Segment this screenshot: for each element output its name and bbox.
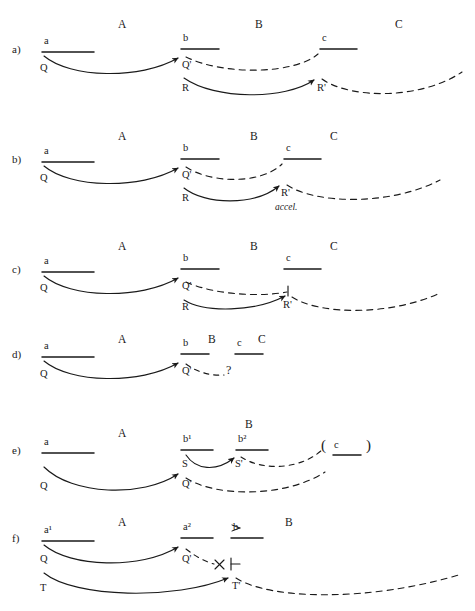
- panel-c-signal-Qprime: [186, 282, 287, 295]
- region-label-B-c: B: [250, 241, 258, 253]
- panel-a-signal-Rprime: [322, 72, 462, 94]
- panel-id-f: f): [12, 533, 19, 544]
- node-label-c-e: c: [334, 440, 339, 451]
- region-label-C-d: C: [258, 334, 266, 346]
- region-label-A-f: A: [118, 517, 126, 529]
- node-label-b-d: b: [183, 338, 188, 349]
- signal-label-Rprime-b: R': [281, 188, 290, 199]
- region-label-C-a: C: [395, 19, 403, 31]
- paren-open-e: (: [321, 438, 326, 453]
- panel-a-bars: [42, 49, 357, 52]
- panel-f-signal-Q: [44, 545, 178, 563]
- panel-id-d: d): [12, 349, 21, 360]
- node-label-c-d: c: [237, 338, 242, 349]
- signal-label-Qprime-a: Q': [182, 60, 191, 71]
- signal-label-T-f: T: [40, 583, 46, 594]
- signal-label-Tprime-f: T': [232, 581, 240, 592]
- node-label-a-e: a: [44, 437, 49, 448]
- region-label-B-b: B: [250, 131, 258, 143]
- diagram-vector-layer: [0, 0, 475, 611]
- region-label-A-a: A: [118, 19, 126, 31]
- panel-f-signal-Tprime: [236, 574, 462, 595]
- node-label-a-d: a: [44, 341, 49, 352]
- node-label-b-c: b: [183, 253, 188, 264]
- panel-f-blocked-cross: [215, 560, 224, 569]
- signal-label-Rprime-c: R': [283, 300, 292, 311]
- signal-label-R-a: R: [182, 83, 189, 94]
- region-label-A-e: A: [118, 428, 126, 440]
- panel-c-signal-Rprime: [292, 293, 440, 310]
- panel-c-signal-R: [184, 296, 285, 309]
- diagram-canvas: a) A B C a b c Q Q' R R' b) A B C a b c …: [0, 0, 475, 611]
- node-label-b1-e: b¹: [183, 434, 191, 445]
- signal-label-R-b: R: [182, 193, 189, 204]
- panel-f-signal-T: [44, 573, 228, 593]
- panel-c-signal-Q: [44, 276, 178, 294]
- signal-label-Q-f: Q: [40, 554, 48, 565]
- panel-b-signal-R: [184, 186, 279, 201]
- panel-e-bars: [42, 450, 361, 455]
- node-label-c-a: c: [322, 33, 327, 44]
- signal-label-Qprime-f: Q': [182, 554, 191, 565]
- node-label-a1-f: a¹: [44, 525, 52, 536]
- signal-label-Qprime-e: Q': [182, 479, 191, 490]
- signal-label-Qprime-b: Q': [182, 170, 191, 181]
- panel-id-c: c): [12, 264, 21, 275]
- panel-a-signal-R: [184, 78, 314, 95]
- signal-label-Q-a: Q: [40, 63, 48, 74]
- region-label-A-c: A: [118, 241, 126, 253]
- panel-a-signal-Qprime: [186, 54, 318, 70]
- panel-e-signal-Q: [44, 467, 178, 490]
- signal-label-Q-c: Q: [40, 283, 48, 294]
- panel-b-signal-Rprime: [287, 180, 440, 199]
- panel-e-signal-Qprime: [186, 472, 325, 492]
- panel-id-b: b): [12, 154, 21, 165]
- panel-id-a: a): [12, 44, 21, 55]
- signal-label-R-c: R: [182, 302, 189, 313]
- node-label-a-b: a: [44, 146, 49, 157]
- node-label-b-b: b: [183, 143, 188, 154]
- note-accel-b: accel.: [275, 203, 297, 213]
- signal-label-Rprime-a: R': [317, 83, 326, 94]
- panel-a-signal-Q: [44, 56, 178, 74]
- node-label-b-f: b: [233, 522, 238, 533]
- panel-f-bars: [42, 538, 263, 541]
- note-question-mark-d: ?: [226, 364, 231, 376]
- region-label-A-b: A: [118, 131, 126, 143]
- signal-label-Q-b: Q: [40, 173, 48, 184]
- panel-b-signal-Q: [44, 166, 178, 184]
- panel-b-signal-Qprime: [186, 164, 282, 179]
- panel-b-bars: [42, 159, 321, 162]
- panel-e-signal-Sprime: [241, 450, 322, 466]
- signal-label-Qprime-c: Q': [182, 281, 191, 292]
- panel-c-bars: [42, 269, 321, 272]
- region-label-B-d: B: [208, 334, 216, 346]
- region-label-C-c: C: [330, 241, 338, 253]
- signal-label-Q-e: Q: [40, 481, 48, 492]
- region-label-B-f: B: [285, 517, 293, 529]
- panel-e-signal-S: [186, 455, 234, 467]
- signal-label-Sprime-e: S': [235, 459, 243, 470]
- panel-id-e: e): [12, 445, 21, 456]
- panel-f-end-tick: [231, 558, 240, 570]
- region-label-C-b: C: [330, 131, 338, 143]
- node-label-a-a: a: [44, 36, 49, 47]
- signal-label-Qprime-d: Q': [182, 366, 191, 377]
- node-label-b2-e: b²: [238, 434, 246, 445]
- region-label-B-a: B: [255, 19, 263, 31]
- region-label-A-d: A: [118, 334, 126, 346]
- panel-d-signal-Qprime: [186, 364, 224, 375]
- node-label-a2-f: a²: [183, 522, 191, 533]
- node-label-c-b: c: [286, 143, 291, 154]
- paren-close-e: ): [366, 438, 371, 453]
- node-label-c-c: c: [286, 253, 291, 264]
- region-label-B-e: B: [245, 419, 253, 431]
- signal-label-S-e: S: [182, 459, 188, 470]
- panel-d-bars: [42, 354, 263, 357]
- node-label-b-a: b: [183, 33, 188, 44]
- node-label-a-c: a: [44, 256, 49, 267]
- panel-d-signal-Q: [44, 361, 178, 379]
- signal-label-Q-d: Q: [40, 369, 48, 380]
